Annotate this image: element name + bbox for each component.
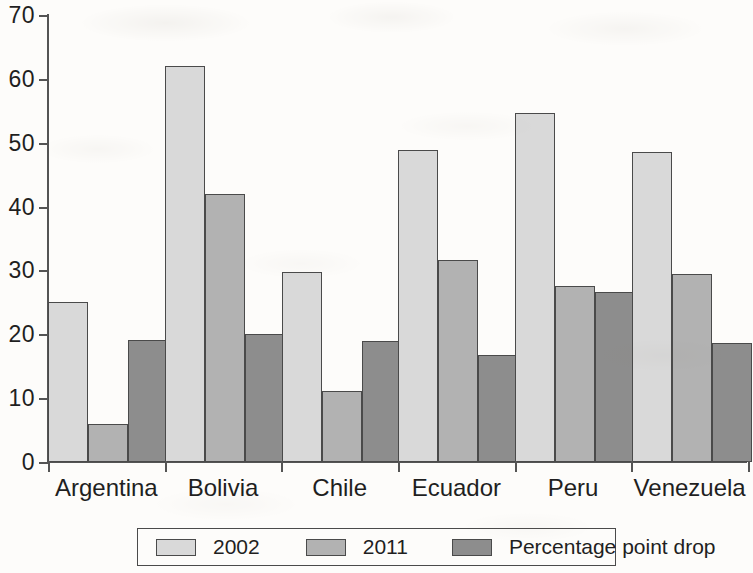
bar	[672, 274, 712, 462]
bar	[438, 260, 478, 462]
x-axis-tick	[631, 461, 633, 472]
x-axis-category-label: Bolivia	[188, 474, 259, 502]
bar	[398, 150, 438, 462]
bar	[632, 152, 672, 462]
bar-chart: 010203040506070 2002 2011 Percentage poi…	[0, 0, 753, 573]
y-axis-tick	[39, 79, 48, 81]
y-axis-tick-label: 60	[8, 65, 35, 92]
bar	[515, 113, 555, 462]
y-axis-tick-label: 70	[8, 2, 35, 29]
bar	[362, 341, 402, 462]
x-axis-tick	[48, 461, 50, 472]
y-axis-tick	[39, 398, 48, 400]
bar	[712, 343, 752, 462]
y-axis-tick-label: 20	[8, 321, 35, 348]
legend-label: 2002	[213, 535, 260, 559]
bar	[478, 355, 518, 462]
bar	[282, 272, 322, 462]
bar	[245, 334, 285, 462]
y-axis-tick-label: 0	[22, 449, 35, 476]
y-axis-tick-label: 10	[8, 385, 35, 412]
legend-item-2011: 2011	[306, 535, 408, 559]
y-axis-tick	[39, 270, 48, 272]
legend-swatch-icon	[156, 539, 196, 556]
bar	[595, 292, 635, 462]
y-axis-tick	[39, 207, 48, 209]
legend-swatch-icon	[452, 539, 492, 556]
y-axis-tick-label: 50	[8, 129, 35, 156]
plot-area: 010203040506070	[48, 15, 748, 462]
x-axis-tick	[515, 461, 517, 472]
legend-item-2002: 2002	[156, 535, 260, 559]
chart-legend: 2002 2011 Percentage point drop	[137, 528, 616, 566]
bar	[555, 286, 595, 462]
y-axis-tick-label: 40	[8, 193, 35, 220]
y-axis-tick	[39, 143, 48, 145]
y-axis-tick	[39, 334, 48, 336]
bar	[128, 340, 168, 462]
x-axis-category-label: Peru	[548, 474, 599, 502]
x-axis-tick	[165, 461, 167, 472]
legend-item-percentage-point-drop: Percentage point drop	[452, 535, 716, 559]
bar	[205, 194, 245, 462]
y-axis-tick-label: 30	[8, 257, 35, 284]
bar	[48, 302, 88, 462]
x-axis-category-label: Venezuela	[634, 474, 746, 502]
x-axis-tick	[748, 461, 750, 472]
y-axis-tick	[39, 15, 48, 17]
bar	[88, 424, 128, 462]
y-axis-tick	[39, 462, 48, 464]
legend-label: Percentage point drop	[509, 535, 716, 559]
x-axis-tick	[398, 461, 400, 472]
bar	[322, 391, 362, 462]
bar	[165, 66, 205, 462]
legend-swatch-icon	[306, 539, 346, 556]
x-axis-tick	[281, 461, 283, 472]
x-axis-category-label: Ecuador	[412, 474, 501, 502]
x-axis-category-label: Chile	[312, 474, 367, 502]
legend-label: 2011	[363, 535, 408, 559]
x-axis-category-label: Argentina	[55, 474, 158, 502]
